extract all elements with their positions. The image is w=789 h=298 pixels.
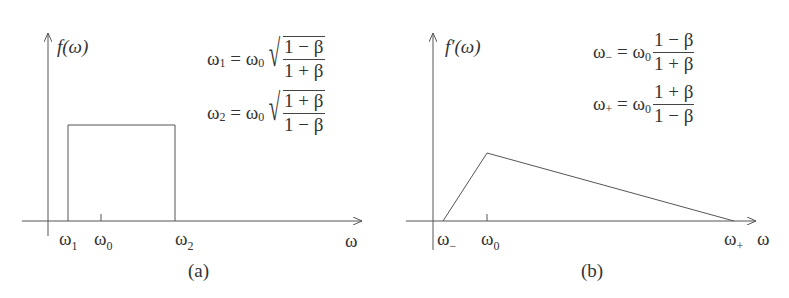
panel-b-y-label: f′(ω) [445,37,481,56]
eq-rhs-sub: 0 [258,56,264,71]
fraction: 1 + β1 − β [283,90,324,136]
tick-base: ω [481,228,494,249]
eq-lhs: ω [207,102,220,124]
eq-lhs: ω [593,93,606,115]
fraction-denominator: 1 + β [654,53,693,75]
panel-b-triangle-curve [443,153,734,221]
panel-a-y-label: f(ω) [57,37,88,56]
eq-rhs: = ω [612,93,645,115]
eq-rhs-sub: 0 [258,110,264,125]
panel-b-axes [406,33,756,250]
fraction: 1 + β1 − β [653,82,694,127]
panel-b-caption: (b) [581,260,603,282]
panel-a-tick-omega2: ω2 [175,229,194,248]
fraction: 1 − β1 + β [283,36,324,82]
tick-base: ω [437,228,450,249]
tick-base: ω [175,228,188,249]
panel-b-equation-omega-minus: ω− = ω0 1 − β1 + β [593,30,694,75]
tick-sub: 1 [72,239,78,253]
eq-lhs: ω [207,48,220,70]
eq-rhs: = ω [226,48,259,70]
panel-a-x-label: ω [345,231,358,250]
eq-lhs-sub: − [606,50,613,65]
tick-base: ω [724,228,737,249]
tick-sub: − [450,239,457,253]
panel-a-tick-omega1: ω1 [59,229,78,248]
panel-a-y-label-text: f(ω) [57,36,88,57]
panel-b-y-label-text: f′(ω) [445,36,481,57]
eq-rhs: = ω [612,41,645,63]
eq-lhs: ω [593,41,606,63]
panel-a-equation-omega2: ω2 = ω0 √ 1 + β1 − β [207,90,325,136]
panel-b-x-label: ω [757,229,770,248]
tick-base: ω [59,228,72,249]
sqrt-symbol: √ 1 − β1 + β [264,36,324,82]
tick-sub: 0 [494,239,500,253]
eq-rhs-sub: 0 [645,50,651,65]
fraction-numerator: 1 − β [653,30,694,53]
fraction-numerator: 1 + β [653,82,694,105]
panel-a-rectangle-pulse [68,125,175,221]
fraction-denominator: 1 − β [654,105,693,127]
panel-b-tick-omega-plus: ω+ [724,229,743,248]
eq-lhs-sub: 2 [220,110,226,125]
tick-sub: 2 [188,239,194,253]
panel-b-equation-omega-plus: ω+ = ω0 1 + β1 − β [593,82,694,127]
eq-lhs-sub: 1 [220,56,226,71]
tick-sub: 0 [107,239,113,253]
sqrt-symbol: √ 1 + β1 − β [264,90,324,136]
fraction-numerator: 1 − β [283,36,324,60]
fraction-denominator: 1 + β [284,60,323,82]
fraction: 1 − β1 + β [653,30,694,75]
eq-rhs-sub: 0 [645,102,651,117]
tick-base: ω [94,228,107,249]
fraction-denominator: 1 − β [284,114,323,136]
panel-a-tick-omega0: ω0 [94,229,113,248]
panel-b-tick-omega0: ω0 [481,229,500,248]
panel-a-caption: (a) [188,260,209,282]
fraction-numerator: 1 + β [283,90,324,114]
eq-rhs: = ω [226,102,259,124]
panel-a-equation-omega1: ω1 = ω0 √ 1 − β1 + β [207,36,325,82]
eq-lhs-sub: + [606,102,613,117]
tick-sub: + [737,239,744,253]
panel-b-tick-omega-minus: ω− [437,229,456,248]
